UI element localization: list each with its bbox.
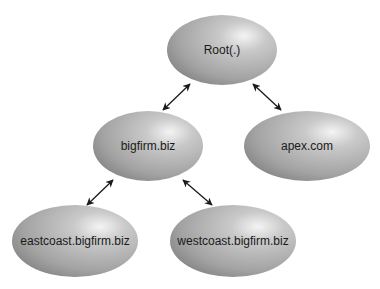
node-bigfirm: bigfirm.biz <box>93 111 203 181</box>
bidirectional-arrow-bigfirm-westcoast <box>183 180 212 205</box>
node-label: Root(.) <box>204 43 241 57</box>
bidirectional-arrow-bigfirm-eastcoast <box>87 180 113 205</box>
node-label: eastcoast.bigfirm.biz <box>20 234 129 248</box>
node-eastcoast: eastcoast.bigfirm.biz <box>12 205 138 277</box>
nodes-layer: Root(.)bigfirm.bizapex.comeastcoast.bigf… <box>12 15 370 277</box>
bidirectional-arrow-root-bigfirm <box>163 84 190 110</box>
node-label: westcoast.bigfirm.biz <box>176 234 288 248</box>
node-westcoast: westcoast.bigfirm.biz <box>170 205 296 277</box>
node-label: bigfirm.biz <box>121 139 176 153</box>
node-apex: apex.com <box>244 111 370 181</box>
dns-hierarchy-diagram: Root(.)bigfirm.bizapex.comeastcoast.bigf… <box>0 0 380 289</box>
node-label: apex.com <box>281 139 333 153</box>
bidirectional-arrow-root-apex <box>253 84 281 110</box>
node-root: Root(.) <box>167 15 277 85</box>
